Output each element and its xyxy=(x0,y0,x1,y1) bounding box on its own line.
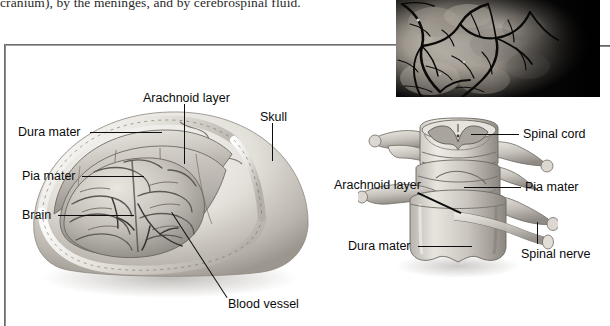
label-pia-mater-brain: Pia mater xyxy=(22,170,76,183)
leader-pia-mater-spine xyxy=(464,187,521,188)
leader-spinal-nerve xyxy=(537,222,538,244)
figure-top-rule-left xyxy=(4,44,396,46)
label-spinal-nerve: Spinal nerve xyxy=(521,248,591,261)
photo-artwork xyxy=(396,0,600,97)
brain-surface-photograph xyxy=(396,0,600,97)
leader-pia-mater-brain xyxy=(82,176,144,177)
label-arachnoid-layer-spine: Arachnoid layer xyxy=(334,179,421,192)
body-text-line: cranium), by the meninges, and by cerebr… xyxy=(0,0,360,11)
leader-skull xyxy=(272,123,273,161)
label-skull: Skull xyxy=(260,111,287,124)
label-dura-mater-spine: Dura mater xyxy=(348,240,411,253)
label-pia-mater-spine: Pia mater xyxy=(525,181,579,194)
leader-brain xyxy=(58,215,134,216)
leader-dura-mater-brain xyxy=(90,132,162,133)
figure-left-rule xyxy=(4,44,6,326)
leader-dura-mater-spine xyxy=(418,246,472,247)
label-dura-mater-brain: Dura mater xyxy=(18,126,81,139)
label-spinal-cord: Spinal cord xyxy=(523,128,586,141)
leader-spinal-cord xyxy=(471,134,519,135)
label-blood-vessel: Blood vessel xyxy=(228,298,299,311)
label-brain: Brain xyxy=(22,209,51,222)
label-arachnoid-layer-brain: Arachnoid layer xyxy=(143,92,230,105)
leader-arachnoid-layer-brain xyxy=(184,104,185,164)
figure-page: cranium), by the meninges, and by cerebr… xyxy=(0,0,610,326)
